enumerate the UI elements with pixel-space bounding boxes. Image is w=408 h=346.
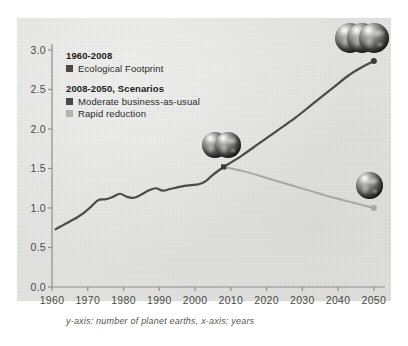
chart-legend: 1960-2008 Ecological Footprint 2008-2050… (66, 50, 200, 120)
y-tick-2.0: 2.0 (12, 123, 46, 135)
x-tick-2000: 2000 (177, 294, 213, 306)
y-tick-3.0: 3.0 (12, 44, 46, 56)
legend-header-historical: 1960-2008 (66, 50, 200, 61)
y-tick-1.0: 1.0 (12, 202, 46, 214)
x-tick-2030: 2030 (284, 294, 320, 306)
x-tick-1960: 1960 (34, 294, 70, 306)
figure-container: 0.00.51.01.52.02.53.0 196019701980199020… (0, 0, 408, 346)
x-tick-1970: 1970 (70, 294, 106, 306)
legend-swatch-ecological-footprint (66, 65, 73, 72)
x-tick-2040: 2040 (320, 294, 356, 306)
legend-swatch-business-as-usual (66, 98, 73, 105)
y-tick-0.5: 0.5 (12, 241, 46, 253)
y-tick-2.5: 2.5 (12, 83, 46, 95)
x-tick-1980: 1980 (106, 294, 142, 306)
x-tick-2050: 2050 (356, 294, 392, 306)
earth-globe-icon-branch-2 (215, 132, 241, 158)
y-tick-1.5: 1.5 (12, 162, 46, 174)
chart-caption: y-axis: number of planet earths, x-axis:… (66, 316, 254, 326)
legend-item-ecological-footprint: Ecological Footprint (66, 63, 200, 74)
x-tick-2010: 2010 (213, 294, 249, 306)
legend-swatch-rapid-reduction (66, 110, 73, 117)
y-tick-0.0: 0.0 (12, 281, 46, 293)
legend-label-rapid-reduction: Rapid reduction (78, 108, 146, 119)
legend-label-business-as-usual: Moderate business-as-usual (78, 96, 200, 107)
legend-item-business-as-usual: Moderate business-as-usual (66, 96, 200, 107)
legend-header-scenarios: 2008-2050, Scenarios (66, 83, 200, 94)
x-tick-2020: 2020 (249, 294, 285, 306)
legend-label-ecological-footprint: Ecological Footprint (78, 63, 163, 74)
x-tick-1990: 1990 (141, 294, 177, 306)
legend-spacer (66, 75, 200, 83)
legend-item-rapid-reduction: Rapid reduction (66, 108, 200, 119)
earth-globe-icon-bau-3 (359, 23, 389, 53)
